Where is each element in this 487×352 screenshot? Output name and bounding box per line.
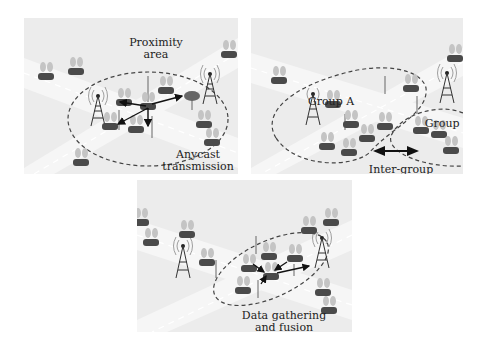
fusion-caption: Data gathering and fusion	[229, 310, 339, 332]
panel-anycast: Proximity area Anycast transmission	[24, 18, 238, 174]
proximity-area-label: Proximity area	[124, 37, 188, 61]
group-b-label: Group B	[423, 118, 463, 130]
tree-icon	[184, 91, 200, 110]
panel-intergroup: Group A Group B Inter-group communicatio…	[251, 18, 463, 174]
inter-group-double-arrow	[373, 146, 419, 156]
panel-fusion: Data gathering and fusion	[137, 180, 352, 332]
inter-group-caption: Inter-group communication	[356, 164, 446, 174]
group-a-label: Group A	[301, 96, 361, 108]
anycast-caption: Anycast transmission	[160, 149, 236, 173]
